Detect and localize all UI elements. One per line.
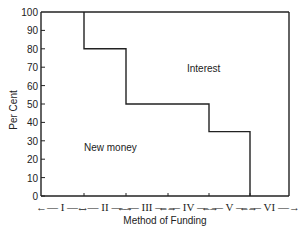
y-tick-100: 100: [21, 7, 38, 18]
x-axis-title: Method of Funding: [123, 215, 206, 226]
y-tick-labels: 0 10 20 30 40 50 60 70 80 90 100: [21, 7, 38, 202]
y-tick-40: 40: [27, 117, 39, 128]
y-tick-90: 90: [27, 25, 39, 36]
y-tick-80: 80: [27, 44, 39, 55]
y-tick-70: 70: [27, 62, 39, 73]
step-chart: 0 10 20 30 40 50 60 70 80 90 100 Interes…: [0, 0, 298, 233]
step-line: [84, 12, 250, 196]
y-tick-20: 20: [27, 154, 39, 165]
y-tick-50: 50: [27, 99, 39, 110]
category-VI: ←— VI —→: [239, 201, 298, 213]
category-labels: ←— I —→ ←— II —→ ←— III —→ ←— IV —→ ←— V…: [36, 201, 298, 213]
interest-label: Interest: [187, 63, 221, 74]
y-tick-10: 10: [27, 173, 39, 184]
y-tick-30: 30: [27, 136, 39, 147]
y-tick-60: 60: [27, 81, 39, 92]
y-axis-title: Per Cent: [8, 90, 19, 130]
new-money-label: New money: [84, 142, 137, 153]
